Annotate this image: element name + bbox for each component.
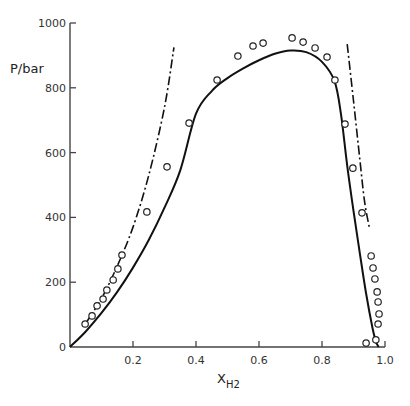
- data-point: [214, 77, 220, 83]
- data-point: [375, 299, 381, 305]
- data-point: [82, 321, 88, 327]
- data-point: [373, 337, 379, 343]
- data-point: [289, 35, 295, 41]
- data-point: [363, 340, 369, 346]
- data-point: [376, 311, 382, 317]
- data-point: [368, 253, 374, 259]
- data-point: [235, 53, 241, 59]
- phase-diagram-chart: 02004006008001000 0.20.40.60.81.0 P/bar …: [0, 0, 410, 406]
- data-point: [94, 303, 100, 309]
- data-point: [144, 209, 150, 215]
- x-axis-title-main: X: [217, 371, 226, 386]
- data-point: [115, 266, 121, 272]
- data-point: [119, 252, 125, 258]
- data-point: [300, 39, 306, 45]
- calculated-solid-curve: [70, 50, 379, 347]
- y-tick-label: 1000: [38, 17, 66, 30]
- data-point: [374, 289, 380, 295]
- calculated-dash-dot-curve: [347, 44, 369, 227]
- data-point: [104, 287, 110, 293]
- x-tick-label: 1.0: [376, 354, 394, 367]
- calculated-dash-dot-curve: [85, 47, 174, 324]
- y-tick-label: 0: [59, 341, 66, 354]
- x-ticks: 0.20.40.60.81.0: [124, 341, 394, 367]
- x-tick-label: 0.4: [187, 354, 205, 367]
- y-axis-title: P/bar: [10, 61, 44, 76]
- x-axis-title: XH2: [217, 371, 240, 390]
- y-tick-label: 800: [45, 82, 66, 95]
- data-points: [82, 35, 382, 347]
- axes: [70, 23, 385, 347]
- y-tick-label: 200: [45, 276, 66, 289]
- data-point: [332, 77, 338, 83]
- data-point: [100, 296, 106, 302]
- data-point: [110, 277, 116, 283]
- data-point: [324, 54, 330, 60]
- data-point: [164, 164, 170, 170]
- data-point: [370, 265, 376, 271]
- data-point: [250, 43, 256, 49]
- data-point: [359, 210, 365, 216]
- x-tick-label: 0.8: [313, 354, 331, 367]
- data-point: [186, 120, 192, 126]
- y-tick-label: 400: [45, 211, 66, 224]
- y-tick-label: 600: [45, 147, 66, 160]
- data-point: [350, 165, 356, 171]
- data-point: [372, 276, 378, 282]
- data-point: [260, 40, 266, 46]
- x-tick-label: 0.6: [250, 354, 268, 367]
- data-point: [89, 313, 95, 319]
- data-point: [342, 121, 348, 127]
- data-point: [375, 321, 381, 327]
- data-point: [312, 45, 318, 51]
- x-axis-title-subscript: H2: [226, 379, 240, 390]
- x-tick-label: 0.2: [124, 354, 142, 367]
- curves: [70, 44, 379, 347]
